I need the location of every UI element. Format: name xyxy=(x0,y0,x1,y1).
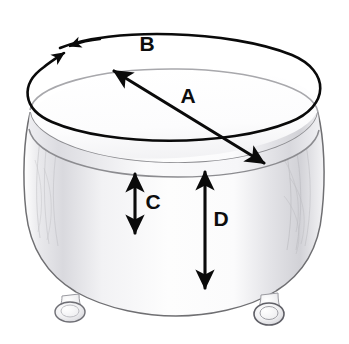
measure-c-label: C xyxy=(145,190,160,213)
measure-b-label: B xyxy=(139,32,154,55)
measure-d-label: D xyxy=(213,207,228,230)
ottoman-diagram: B A C D xyxy=(0,0,349,344)
ottoman-illustration xyxy=(24,61,324,325)
foot-left xyxy=(55,294,85,322)
diagram-canvas: B A C D xyxy=(0,0,349,344)
measure-a-label: A xyxy=(180,84,195,107)
